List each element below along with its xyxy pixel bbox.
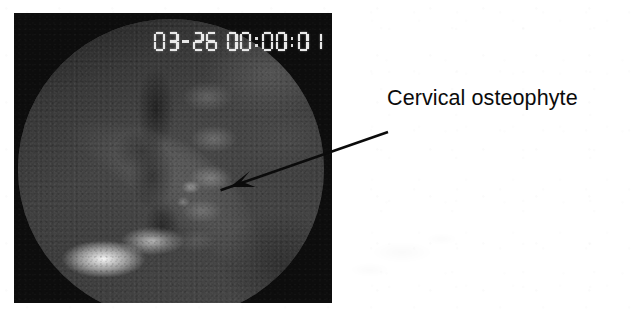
seg-digit-m1 [262,32,273,51]
seg-colon-1 [254,32,260,51]
seg-digit-h2 [240,32,251,51]
seg-digit-6 [206,32,217,51]
annotation-label-cervical-osteophyte: Cervical osteophyte [387,86,578,111]
figure-canvas: Cervical osteophyte [0,0,636,316]
image-noise-grain [18,19,324,303]
timestamp-date [154,32,220,51]
timestamp-time [227,32,325,51]
seg-digit-3 [168,32,179,51]
fluoroscopy-image-panel [14,13,332,303]
seg-dash-separator [181,32,190,51]
seg-digit-s1 [298,32,309,51]
seg-digit-s2 [311,32,322,51]
timestamp-overlay [154,32,325,51]
seg-digit-m2 [276,32,287,51]
fluoroscopic-circular-field [18,19,324,303]
paper-smudge-artifact [330,195,510,305]
seg-digit-h1 [227,32,238,51]
seg-digit-0a [154,32,165,51]
seg-digit-2 [193,32,204,51]
seg-colon-2 [289,32,295,51]
